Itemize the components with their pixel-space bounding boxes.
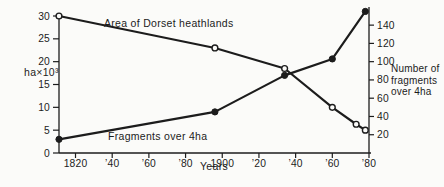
right-axis-title-line-3: over 4ha (391, 86, 440, 98)
x-axis-tick-label: ’60 (325, 158, 339, 169)
right-axis-tick-label: 40 (377, 111, 389, 122)
right-axis-tick-label: 60 (377, 93, 389, 104)
x-axis-tick-label: ’80 (178, 158, 192, 169)
x-axis-tick-label: ’80 (362, 158, 376, 169)
left-axis-tick-label: 15 (38, 79, 50, 90)
right-axis-title-line-1: Number of (391, 63, 440, 75)
x-axis-tick-label: ’60 (142, 158, 156, 169)
area-series-point (329, 104, 335, 110)
x-axis-tick-label: ’40 (288, 158, 302, 169)
x-axis-title: Years (200, 160, 228, 172)
x-axis-tick-label: ’20 (252, 158, 266, 169)
fragments-series-point (56, 136, 62, 142)
fragments-series-line (59, 11, 365, 139)
fragments-series-label: Fragments over 4ha (108, 130, 207, 142)
fragments-series-point (362, 8, 368, 14)
left-axis-title: ha×10³ (24, 66, 59, 78)
right-axis-title: Number of fragments over 4ha (391, 63, 440, 98)
dorset-heathlands-chart: 051015202530204060801001201401820’40’60’… (0, 0, 444, 187)
left-axis-tick-label: 30 (38, 11, 50, 22)
right-axis-tick-label: 80 (377, 74, 389, 85)
fragments-series-point (212, 109, 218, 115)
left-axis-tick-label: 10 (38, 102, 50, 113)
left-axis-tick-label: 5 (44, 125, 50, 136)
area-series-point (362, 127, 368, 133)
left-axis-tick-label: 25 (38, 33, 50, 44)
right-axis-tick-label: 20 (377, 129, 389, 140)
fragments-series-point (282, 72, 288, 78)
area-series-point (56, 13, 62, 19)
right-axis-tick-label: 140 (377, 20, 395, 31)
area-series-point (353, 121, 359, 127)
area-series-label: Area of Dorset heathlands (104, 17, 234, 29)
area-series-point (212, 45, 218, 51)
x-axis-tick-label: ’40 (105, 158, 119, 169)
x-axis-tick-label: 1820 (64, 158, 88, 169)
left-axis-tick-label: 0 (44, 148, 50, 159)
fragments-series-point (329, 56, 335, 62)
right-axis-tick-label: 120 (377, 38, 395, 49)
right-axis-title-line-2: fragments (391, 75, 440, 87)
area-series-point (282, 66, 288, 72)
